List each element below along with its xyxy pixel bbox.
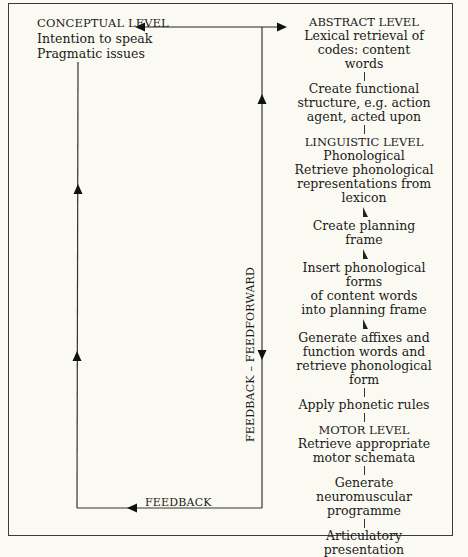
process-step-line: frame	[290, 233, 438, 247]
process-step: Generate affixes andfunction words andre…	[290, 331, 438, 387]
process-step-line: words	[290, 57, 438, 71]
feedback-feedforward-label: FEEDBACK – FEEDFORWARD	[244, 267, 257, 442]
feedback-left-arrow	[127, 504, 137, 513]
feedforward-up-arrow	[258, 94, 267, 104]
process-step-line: Retrieve phonological	[290, 163, 438, 177]
process-step-line: codes: content	[290, 43, 438, 57]
process-step-line: Apply phonetic rules	[290, 398, 438, 412]
process-step-line: motor schemata	[290, 451, 438, 465]
process-step-line: presentation	[290, 543, 438, 557]
process-step-line: structure, e.g. action	[290, 96, 438, 110]
connector-tick	[290, 465, 438, 476]
conceptual-line: Pragmatic issues	[37, 46, 169, 61]
process-step-line: representations from	[290, 177, 438, 191]
process-steps-column: ABSTRACT LEVELLexical retrieval ofcodes:…	[290, 15, 438, 557]
process-step-line: neuromuscular	[290, 490, 438, 504]
process-step: Articulatorypresentation	[290, 529, 438, 557]
process-step-line: Retrieve appropriate	[290, 437, 438, 451]
half-arrow-up-icon	[290, 247, 438, 261]
half-arrow-up-icon	[290, 205, 438, 219]
connector-tick	[290, 387, 438, 398]
process-step: Generateneuromuscularprogramme	[290, 476, 438, 518]
conceptual-line: Intention to speak	[37, 31, 169, 46]
arrow-right-to-abstract	[277, 23, 287, 32]
process-step: Retrieve appropriatemotor schemata	[290, 437, 438, 465]
connector-tick	[290, 518, 438, 529]
connector-tick	[290, 124, 438, 135]
process-step-line: function words and	[290, 345, 438, 359]
feedback-left-line	[77, 62, 78, 508]
feedback-label: FEEDBACK	[145, 496, 212, 509]
process-step-line: lexicon	[290, 191, 438, 205]
half-arrow-up-icon	[290, 317, 438, 331]
feedforward-down-arrow	[258, 350, 267, 360]
process-step: Insert phonological formsof content word…	[290, 261, 438, 317]
process-step-line: Articulatory	[290, 529, 438, 543]
process-step-line: of content words	[290, 289, 438, 303]
conceptual-level-block: CONCEPTUAL LEVEL Intention to speak Prag…	[37, 16, 169, 61]
level-heading: ABSTRACT LEVEL	[290, 15, 438, 29]
process-step-line: Generate affixes and	[290, 331, 438, 345]
process-step-line: retrieve phonological form	[290, 359, 438, 387]
process-step-line: Generate	[290, 476, 438, 490]
level-heading: LINGUISTIC LEVEL	[290, 135, 438, 149]
process-step-line: into planning frame	[290, 303, 438, 317]
process-step: Create functionalstructure, e.g. actiona…	[290, 82, 438, 124]
process-step-line: Create planning	[290, 219, 438, 233]
process-step-line: Lexical retrieval of	[290, 29, 438, 43]
process-step-line: Create functional	[290, 82, 438, 96]
process-step: Apply phonetic rules	[290, 398, 438, 412]
process-step-line: Insert phonological forms	[290, 261, 438, 289]
conceptual-level-title: CONCEPTUAL LEVEL	[37, 16, 169, 31]
process-step: Lexical retrieval ofcodes: contentwords	[290, 29, 438, 71]
level-heading: MOTOR LEVEL	[290, 423, 438, 437]
left-up-arrow-1	[74, 184, 83, 194]
left-up-arrow-2	[73, 351, 82, 361]
connector-tick	[290, 71, 438, 82]
process-step-line: programme	[290, 504, 438, 518]
process-step: Create planningframe	[290, 219, 438, 247]
process-step-line: Phonological	[290, 149, 438, 163]
process-step-line: agent, acted upon	[290, 110, 438, 124]
process-step: PhonologicalRetrieve phonologicalreprese…	[290, 149, 438, 205]
connector-tick	[290, 412, 438, 423]
